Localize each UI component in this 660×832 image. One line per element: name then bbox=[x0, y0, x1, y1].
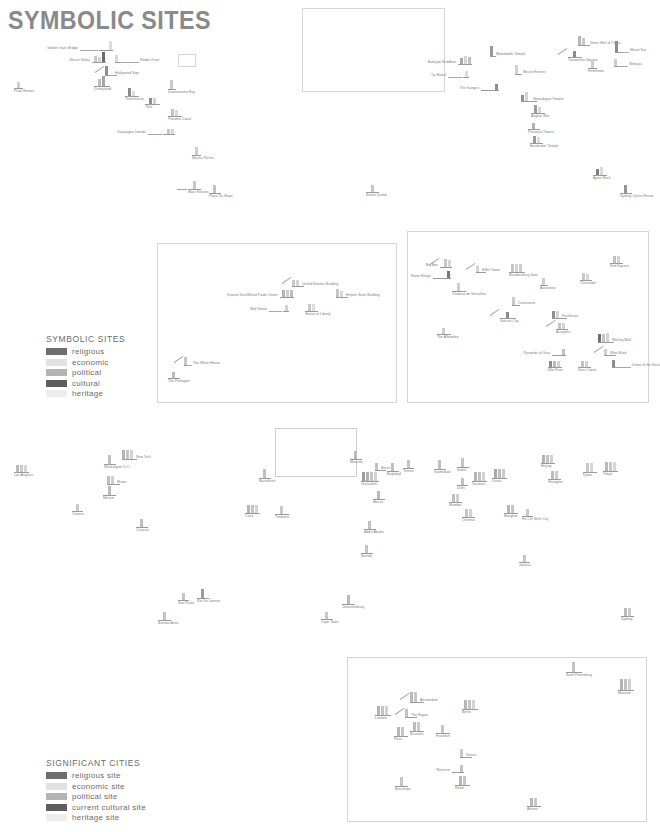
marker-bars bbox=[620, 679, 631, 690]
marker-bar bbox=[400, 777, 403, 786]
marker-label: London bbox=[375, 716, 387, 720]
marker-bar bbox=[463, 776, 466, 785]
legend-item[interactable]: economic site bbox=[46, 782, 146, 791]
marker-bar bbox=[468, 700, 471, 709]
marker-baseline bbox=[452, 772, 464, 773]
leader-line-diagonal bbox=[400, 693, 410, 700]
marker-label: Amsterdam bbox=[420, 698, 438, 702]
marker-bar bbox=[460, 765, 463, 772]
marker-baseline bbox=[410, 702, 424, 703]
marker-bar bbox=[530, 798, 533, 806]
marker-label: Athens bbox=[527, 807, 538, 811]
marker-bar bbox=[459, 776, 462, 785]
marker-bars bbox=[441, 725, 444, 733]
marker-bars bbox=[459, 776, 466, 785]
marker-bar bbox=[460, 749, 463, 757]
marker-bar bbox=[385, 706, 388, 715]
legend-item-label: cultural bbox=[72, 379, 100, 388]
marker-bar bbox=[410, 692, 413, 702]
legend-item-label: current cultural site bbox=[72, 803, 146, 812]
marker-label: The Hague bbox=[411, 713, 428, 717]
marker-bar bbox=[377, 706, 380, 715]
marker-baseline bbox=[405, 717, 417, 718]
marker-bar bbox=[405, 709, 408, 717]
marker-bars bbox=[460, 765, 463, 772]
legend-swatch bbox=[46, 793, 67, 800]
leader-line-diagonal bbox=[395, 708, 405, 715]
marker-bars bbox=[377, 706, 388, 715]
marker-bars bbox=[530, 798, 537, 806]
marker-bar bbox=[413, 722, 416, 731]
marker-bars bbox=[405, 709, 408, 717]
legend-swatch bbox=[46, 359, 67, 366]
marker-bar bbox=[472, 700, 475, 709]
legend-swatch bbox=[46, 772, 67, 779]
legend-swatch bbox=[46, 783, 67, 790]
marker-bars bbox=[460, 749, 463, 757]
marker-bar bbox=[441, 725, 444, 733]
marker-bar bbox=[628, 679, 631, 690]
legend-item-label: heritage site bbox=[72, 813, 119, 822]
marker-bar bbox=[624, 679, 627, 690]
marker-label: Barcelona bbox=[395, 787, 411, 791]
legend-item[interactable]: religious site bbox=[46, 771, 146, 780]
legend-item[interactable]: religious bbox=[46, 347, 125, 356]
legend-swatch bbox=[46, 804, 67, 811]
legend-title: SIGNIFICANT CITIES bbox=[46, 758, 146, 768]
marker-bar bbox=[534, 798, 537, 806]
legend-swatch bbox=[46, 369, 67, 376]
legend-item-label: religious site bbox=[72, 771, 121, 780]
marker-label: Brussels bbox=[410, 732, 423, 736]
legend-swatch bbox=[46, 348, 67, 355]
legend-item[interactable]: cultural bbox=[46, 379, 125, 388]
legend-item-label: political site bbox=[72, 792, 118, 801]
marker-bar bbox=[417, 722, 420, 731]
legend-item-label: heritage bbox=[72, 389, 103, 398]
marker-bar bbox=[414, 692, 417, 702]
legend-title: SYMBOLIC SITES bbox=[46, 334, 125, 344]
legend-item[interactable]: heritage bbox=[46, 389, 125, 398]
legend-item[interactable]: economic bbox=[46, 358, 125, 367]
marker-bar bbox=[397, 727, 400, 736]
legend-item[interactable]: heritage site bbox=[46, 813, 146, 822]
legend-item[interactable]: political bbox=[46, 368, 125, 377]
marker-bar bbox=[572, 662, 575, 672]
legend-item-label: political bbox=[72, 368, 101, 377]
marker-bars bbox=[464, 700, 475, 709]
legend-item[interactable]: current cultural site bbox=[46, 803, 146, 812]
marker-bars bbox=[413, 722, 420, 731]
marker-bars bbox=[572, 662, 575, 672]
legend-item-label: economic site bbox=[72, 782, 125, 791]
marker-bar bbox=[464, 700, 467, 709]
legend-item-label: economic bbox=[72, 358, 109, 367]
legend-swatch bbox=[46, 380, 67, 387]
marker-bars bbox=[400, 777, 403, 786]
legend-item[interactable]: political site bbox=[46, 792, 146, 801]
marker-label: Saint Petersburg bbox=[566, 673, 592, 677]
significant-cities-legend: SIGNIFICANT CITIESreligious siteeconomic… bbox=[46, 758, 146, 824]
symbolic-sites-legend: SYMBOLIC SITESreligiouseconomicpolitical… bbox=[46, 334, 125, 400]
marker-label: Venice bbox=[466, 753, 476, 757]
marker-bar bbox=[401, 727, 404, 736]
marker-label: Rome bbox=[455, 786, 464, 790]
marker-label: Paris bbox=[394, 737, 402, 741]
legend-swatch bbox=[46, 814, 67, 821]
marker-bars bbox=[410, 692, 417, 702]
marker-baseline bbox=[460, 757, 472, 758]
marker-bars bbox=[397, 727, 404, 736]
marker-label: Moscow bbox=[618, 691, 631, 695]
marker-bar bbox=[381, 706, 384, 715]
legend-item-label: religious bbox=[72, 347, 105, 356]
marker-bar bbox=[620, 679, 623, 690]
legend-swatch bbox=[46, 390, 67, 397]
marker-label: Frankfurt bbox=[436, 734, 450, 738]
marker-label: Berlin bbox=[462, 710, 471, 714]
marker-label: Florence bbox=[436, 768, 450, 772]
